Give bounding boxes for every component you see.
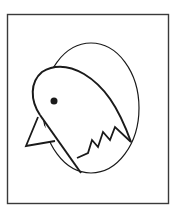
chick-egg-drawing (0, 0, 177, 213)
chick-head-fill (33, 67, 131, 173)
chick-eye (51, 98, 58, 105)
illustration-canvas (0, 0, 177, 213)
